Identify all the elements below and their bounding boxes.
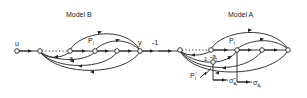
node-u — [15, 49, 20, 54]
label-one: 1 — [204, 56, 208, 62]
node-b1 — [38, 49, 43, 54]
node-a3 — [235, 48, 240, 53]
node-b4 — [115, 49, 120, 54]
label-ai: -ai — [67, 55, 74, 64]
edge-sigma — [237, 50, 252, 82]
node-a1 — [178, 48, 183, 53]
node-y — [138, 49, 143, 54]
perturbation-arrow — [200, 68, 211, 78]
arc-upper-outer — [70, 34, 140, 50]
model-a-title: Model A — [228, 11, 254, 18]
label-pi: Pi — [88, 37, 94, 46]
label-pi-a: Pi — [229, 37, 235, 46]
label-minus-one: -1 — [152, 39, 158, 46]
node-b2 — [68, 49, 73, 54]
model-b: Model B u y Pi — [15, 11, 158, 72]
node-a5 — [286, 48, 291, 53]
label-y: y — [138, 39, 142, 47]
label-sigma: σai — [253, 79, 261, 89]
model-b-title: Model B — [66, 11, 92, 18]
model-a: Model A P — [178, 11, 291, 89]
node-a4 — [260, 48, 265, 53]
node-a2 — [209, 48, 214, 53]
label-u: u — [15, 40, 19, 47]
label-sigma-tilde: σ̃ai — [229, 77, 237, 87]
node-a-sens — [211, 60, 216, 65]
signal-flow-diagram: Model B u y Pi — [0, 0, 307, 98]
node-b3 — [93, 49, 98, 54]
label-pi-prime: Pi' — [190, 71, 197, 81]
